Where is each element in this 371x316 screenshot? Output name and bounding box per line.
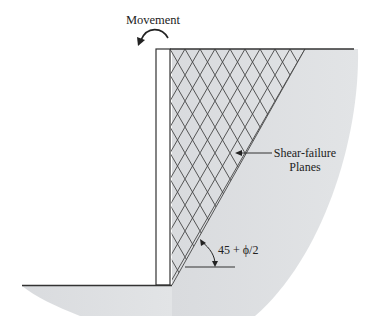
retaining-wall-diagram: Movement Shear-failure Planes 45 + ϕ/2	[0, 0, 371, 316]
movement-label: Movement	[126, 13, 181, 27]
curved-arrow-left-icon	[137, 30, 168, 46]
retaining-wall	[156, 49, 170, 285]
shear-failure-label-line2: Planes	[289, 160, 321, 174]
angle-label: 45 + ϕ/2	[218, 243, 258, 257]
shear-failure-label-line1: Shear-failure	[274, 146, 336, 160]
